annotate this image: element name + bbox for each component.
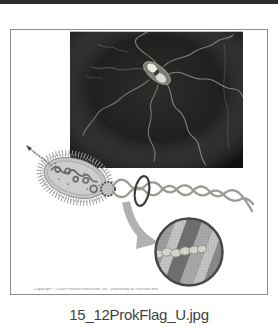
filename-caption[interactable]: 15_12ProkFlag_U.jpg [0, 306, 278, 326]
copyright-fine-print: Copyright © 2008 Pearson Education, Inc.… [34, 288, 158, 291]
top-border-bar [0, 0, 278, 4]
micrograph-image [70, 32, 243, 169]
micrograph-vignette [70, 32, 243, 169]
prokaryotic-flagellum-figure [11, 30, 267, 294]
zoom-arrow [126, 202, 159, 249]
rotation-ring [133, 175, 152, 207]
figure-thumbnail[interactable]: Copyright © 2008 Pearson Education, Inc.… [10, 29, 268, 295]
